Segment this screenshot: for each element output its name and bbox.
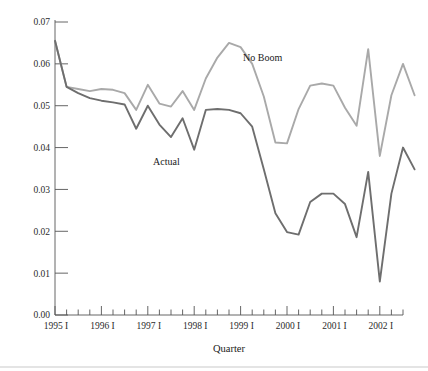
x-tick-label: 2000 I [276, 321, 301, 331]
y-tick-label: 0.07 [33, 17, 50, 27]
x-tick-label: 1995 I [44, 321, 69, 331]
x-tick-label: 2002 I [369, 321, 394, 331]
y-tick-label: 0.00 [33, 310, 50, 320]
y-tick-label: 0.02 [33, 227, 50, 237]
x-tick-label: 1998 I [183, 321, 208, 331]
figure-container: 0.000.010.020.030.040.050.060.07 1995 I1… [0, 0, 428, 371]
series-annotation-no-boom: No Boom [243, 52, 282, 63]
y-tick-label: 0.04 [33, 143, 50, 153]
x-tick-label: 1996 I [90, 321, 115, 331]
x-tick-label: 1999 I [229, 321, 254, 331]
series-annotation-actual: Actual [153, 156, 180, 167]
y-tick-label: 0.06 [33, 59, 50, 69]
x-tick-label: 2001 I [322, 321, 347, 331]
x-tick-label: 1997 I [137, 321, 162, 331]
line-chart: 0.000.010.020.030.040.050.060.07 1995 I1… [0, 0, 428, 371]
y-tick-label: 0.03 [33, 185, 50, 195]
y-tick-label: 0.01 [33, 269, 50, 279]
x-axis-title: Quarter [213, 343, 246, 354]
y-tick-label: 0.05 [33, 101, 50, 111]
